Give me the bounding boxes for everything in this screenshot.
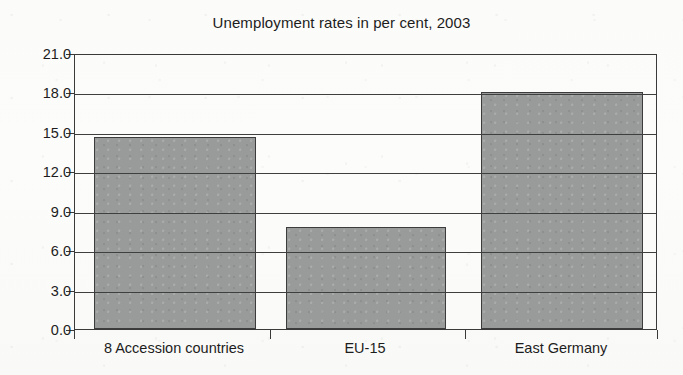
y-tick-label: 3.0 bbox=[51, 284, 71, 298]
gridline bbox=[75, 252, 656, 253]
bar bbox=[94, 137, 256, 329]
bar bbox=[286, 227, 446, 330]
gridline bbox=[75, 134, 656, 135]
chart-title: Unemployment rates in per cent, 2003 bbox=[0, 14, 683, 31]
x-category-label: EU-15 bbox=[215, 340, 515, 357]
y-tick-label: 18.0 bbox=[43, 86, 71, 100]
y-tick-label: 9.0 bbox=[51, 205, 71, 219]
x-tick-mark bbox=[465, 330, 466, 339]
y-tick-label: 0.0 bbox=[51, 323, 71, 337]
x-category-label: 8 Accession countries bbox=[24, 340, 324, 357]
x-tick-mark bbox=[657, 330, 658, 339]
y-tick-label: 21.0 bbox=[43, 47, 71, 61]
plot-area bbox=[74, 54, 657, 330]
y-tick-label: 6.0 bbox=[51, 244, 71, 258]
gridline bbox=[75, 292, 656, 293]
bar bbox=[481, 92, 643, 329]
gridline bbox=[75, 213, 656, 214]
x-tick-mark bbox=[74, 330, 75, 339]
x-tick-mark bbox=[270, 330, 271, 339]
unemployment-bar-chart: Unemployment rates in per cent, 2003 21.… bbox=[0, 0, 683, 375]
y-tick-label: 12.0 bbox=[43, 165, 71, 179]
gridline bbox=[75, 173, 656, 174]
y-tick-mark bbox=[66, 330, 75, 331]
y-tick-label: 15.0 bbox=[43, 126, 71, 140]
bars-layer bbox=[75, 55, 656, 329]
gridline bbox=[75, 94, 656, 95]
x-category-label: East Germany bbox=[411, 340, 683, 357]
